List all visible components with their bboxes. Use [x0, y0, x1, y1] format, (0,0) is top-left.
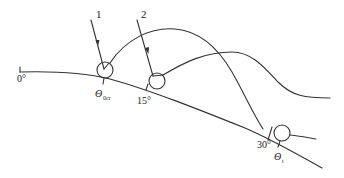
arrow-2-label: 2	[141, 8, 147, 20]
ball-3-trail	[290, 135, 316, 139]
theta-cr-label: Θ	[95, 88, 102, 99]
theta-t-subscript: t	[282, 158, 284, 164]
ball-2-contact-mark	[153, 75, 163, 76]
angle-15-tick	[146, 84, 148, 90]
slope-diagram: 1 2 0° Θ 0cr 15° 30° Θ t	[0, 0, 344, 178]
arrow-1-label: 1	[96, 8, 102, 20]
trajectory-1	[110, 29, 263, 129]
angle-15-label: 15°	[137, 95, 151, 106]
theta-cr-subscript: 0cr	[103, 95, 111, 101]
diagram-canvas: 1 2 0° Θ 0cr 15° 30° Θ t	[0, 0, 344, 178]
theta-t-label: Θ	[274, 151, 281, 162]
ball-1-contact-mark	[104, 63, 109, 69]
angle-30-label: 30°	[257, 139, 271, 150]
ball-1	[97, 62, 113, 78]
ball-3	[274, 125, 290, 141]
angle-0-label: 0°	[17, 73, 26, 84]
theta-cr-tick	[103, 78, 104, 84]
trajectory-2	[163, 52, 330, 98]
